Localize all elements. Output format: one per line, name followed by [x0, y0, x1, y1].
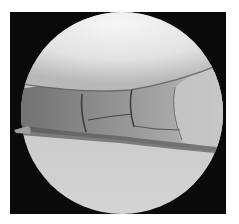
scope-circle	[10, 12, 226, 214]
arthroscopy-view	[10, 12, 226, 214]
arthroscopy-image-frame	[10, 12, 226, 214]
